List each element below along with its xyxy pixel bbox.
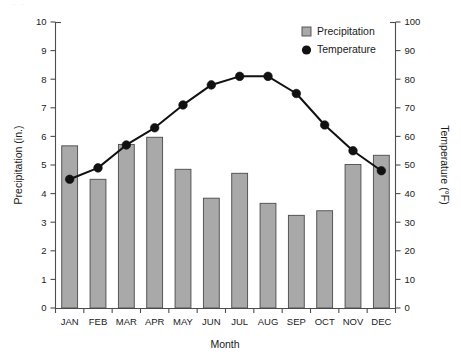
precipitation-bar (317, 211, 333, 308)
precipitation-bar (62, 146, 78, 308)
precipitation-bar (373, 155, 389, 308)
temperature-point (65, 175, 74, 184)
precipitation-bar (175, 169, 191, 308)
right-tick-label: 60 (405, 131, 416, 142)
precipitation-bar (147, 137, 163, 308)
right-axis-ticks: 0102030405060708090100 (396, 16, 421, 313)
month-label: AUG (258, 316, 279, 327)
right-tick-label: 50 (405, 159, 416, 170)
left-tick-label: 6 (41, 131, 46, 142)
precipitation-bars (62, 137, 390, 308)
left-axis-title: Precipitation (in.) (12, 126, 24, 205)
climate-chart: 012345678910 0102030405060708090100 JANF… (0, 0, 461, 360)
left-tick-label: 1 (41, 274, 46, 285)
temperature-point (349, 146, 358, 155)
legend-temperature-dot-icon (302, 45, 311, 54)
left-tick-label: 9 (41, 45, 46, 56)
right-tick-label: 70 (405, 102, 416, 113)
plot-frame (56, 22, 396, 309)
temperature-series (65, 72, 385, 184)
month-label: MAY (173, 316, 194, 327)
month-label: SEP (287, 316, 306, 327)
chart-legend: Precipitation Temperature (302, 25, 376, 56)
right-tick-label: 10 (405, 274, 416, 285)
month-label: JUL (231, 316, 248, 327)
temperature-point (122, 141, 131, 150)
legend-precipitation-label: Precipitation (317, 25, 375, 37)
precipitation-bar (345, 164, 361, 308)
precipitation-bar (118, 144, 134, 308)
right-tick-label: 100 (405, 16, 421, 27)
right-tick-label: 0 (405, 302, 410, 313)
left-tick-label: 10 (36, 16, 47, 27)
legend-temperature-label: Temperature (317, 43, 376, 55)
right-tick-label: 20 (405, 245, 416, 256)
precipitation-bar (260, 203, 276, 308)
temperature-point (377, 166, 386, 175)
month-label: OCT (315, 316, 335, 327)
left-tick-label: 7 (41, 102, 46, 113)
bottom-axis-title: Month (210, 338, 239, 350)
precipitation-bar (288, 215, 304, 308)
month-label: NOV (343, 316, 364, 327)
scan-artifact: · · (13, 1, 26, 8)
left-axis-ticks: 012345678910 (36, 16, 56, 313)
right-tick-label: 40 (405, 188, 416, 199)
right-tick-label: 30 (405, 217, 416, 228)
left-tick-label: 5 (41, 159, 46, 170)
temperature-point (235, 72, 244, 81)
chart-canvas: 012345678910 0102030405060708090100 JANF… (0, 0, 461, 360)
category-axis: JANFEBMARAPRMAYJUNJULAUGSEPOCTNOVDEC (56, 308, 396, 327)
right-tick-label: 80 (405, 74, 416, 85)
temperature-point (207, 81, 216, 90)
left-tick-label: 3 (41, 217, 46, 228)
left-tick-label: 8 (41, 74, 46, 85)
month-label: APR (145, 316, 165, 327)
temperature-point (179, 101, 188, 110)
temperature-point (292, 89, 301, 98)
precipitation-bar (203, 198, 219, 308)
right-axis-title: Temperature (°F) (439, 125, 451, 204)
right-tick-label: 90 (405, 45, 416, 56)
left-tick-label: 4 (41, 188, 46, 199)
temperature-point (150, 124, 159, 133)
temperature-point (264, 72, 273, 81)
temperature-line (70, 76, 382, 179)
legend-precipitation-swatch-icon (302, 27, 311, 36)
month-label: JUN (202, 316, 221, 327)
temperature-point (320, 121, 329, 130)
temperature-point (94, 164, 103, 173)
month-label: FEB (89, 316, 107, 327)
left-tick-label: 2 (41, 245, 46, 256)
month-label: JAN (61, 316, 79, 327)
month-label: MAR (116, 316, 137, 327)
month-label: DEC (371, 316, 391, 327)
precipitation-bar (232, 173, 248, 308)
precipitation-bar (90, 179, 106, 308)
left-tick-label: 0 (41, 302, 46, 313)
